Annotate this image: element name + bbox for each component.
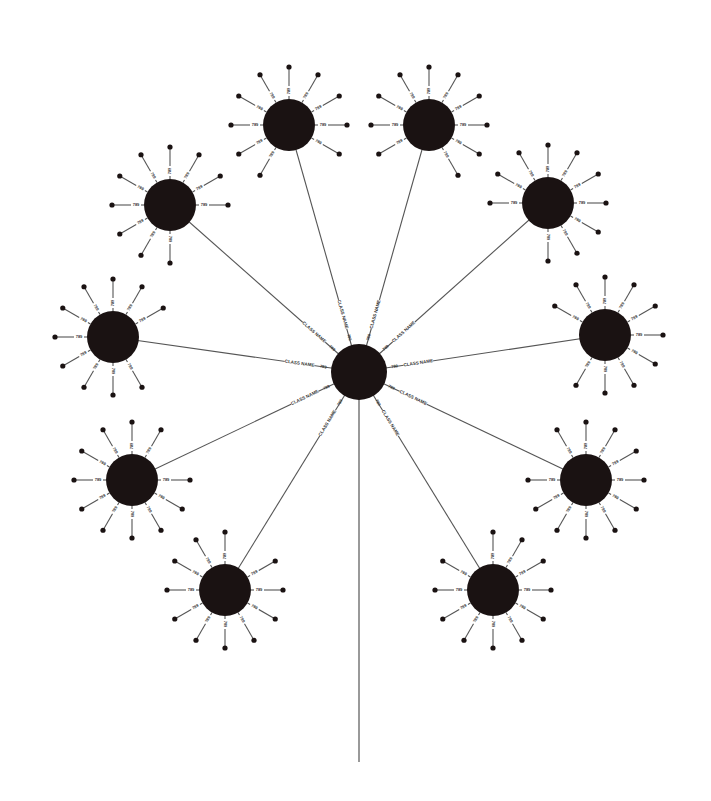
spoke-endpoint-dot[interactable]	[236, 93, 241, 98]
spoke-endpoint-dot[interactable]	[139, 284, 144, 289]
spoke-endpoint-dot[interactable]	[490, 645, 495, 650]
spoke-endpoint-dot[interactable]	[218, 173, 223, 178]
satellite-circle[interactable]	[106, 454, 158, 506]
spoke-endpoint-dot[interactable]	[109, 202, 114, 207]
spoke-endpoint-dot[interactable]	[631, 282, 636, 287]
spoke-endpoint-dot[interactable]	[117, 231, 122, 236]
satellite-node-n9[interactable]: 789789789789789789789789789789789	[164, 529, 285, 650]
spoke-endpoint-dot[interactable]	[490, 529, 495, 534]
spoke-endpoint-dot[interactable]	[60, 305, 65, 310]
satellite-circle[interactable]	[560, 454, 612, 506]
spoke-endpoint-dot[interactable]	[487, 200, 492, 205]
spoke-endpoint-dot[interactable]	[138, 253, 143, 258]
spoke-endpoint-dot[interactable]	[172, 558, 177, 563]
spoke-endpoint-dot[interactable]	[172, 616, 177, 621]
satellite-node-n10[interactable]: 789789789789789789789789789789789	[432, 529, 553, 650]
spoke-endpoint-dot[interactable]	[81, 284, 86, 289]
satellite-circle[interactable]	[403, 99, 455, 151]
spoke-endpoint-dot[interactable]	[273, 558, 278, 563]
spoke-endpoint-dot[interactable]	[653, 361, 658, 366]
satellite-node-n7[interactable]: 789789789789789789789789789789789	[71, 419, 192, 540]
spoke-endpoint-dot[interactable]	[315, 72, 320, 77]
spoke-endpoint-dot[interactable]	[60, 363, 65, 368]
spoke-endpoint-dot[interactable]	[653, 303, 658, 308]
spoke-endpoint-dot[interactable]	[545, 142, 550, 147]
spoke-endpoint-dot[interactable]	[129, 535, 134, 540]
spoke-endpoint-dot[interactable]	[573, 282, 578, 287]
spoke-endpoint-dot[interactable]	[129, 419, 134, 424]
spoke-endpoint-dot[interactable]	[376, 93, 381, 98]
spoke-endpoint-dot[interactable]	[533, 506, 538, 511]
spoke-endpoint-dot[interactable]	[193, 638, 198, 643]
satellite-node-n8[interactable]: 789789789789789789789789789789789	[525, 419, 646, 540]
spoke-endpoint-dot[interactable]	[138, 152, 143, 157]
spoke-endpoint-dot[interactable]	[187, 477, 192, 482]
spoke-endpoint-dot[interactable]	[477, 151, 482, 156]
spoke-endpoint-dot[interactable]	[337, 93, 342, 98]
spoke-endpoint-dot[interactable]	[596, 229, 601, 234]
spoke-endpoint-dot[interactable]	[100, 528, 105, 533]
satellite-node-n6[interactable]: 789789789789789789789789789789	[552, 274, 665, 395]
satellite-node-n3[interactable]: 789789789789789789789789789789	[109, 144, 230, 265]
spoke-endpoint-dot[interactable]	[541, 616, 546, 621]
spoke-endpoint-dot[interactable]	[484, 122, 489, 127]
spoke-endpoint-dot[interactable]	[222, 529, 227, 534]
spoke-endpoint-dot[interactable]	[228, 122, 233, 127]
spoke-endpoint-dot[interactable]	[477, 93, 482, 98]
spoke-endpoint-dot[interactable]	[193, 537, 198, 542]
spoke-endpoint-dot[interactable]	[525, 477, 530, 482]
spoke-endpoint-dot[interactable]	[81, 385, 86, 390]
satellite-node-n1[interactable]: 789789789789789789789789789789	[228, 64, 349, 177]
satellite-circle[interactable]	[579, 309, 631, 361]
spoke-endpoint-dot[interactable]	[273, 616, 278, 621]
spoke-endpoint-dot[interactable]	[641, 477, 646, 482]
spoke-endpoint-dot[interactable]	[257, 72, 262, 77]
spoke-endpoint-dot[interactable]	[164, 587, 169, 592]
spoke-endpoint-dot[interactable]	[602, 274, 607, 279]
spoke-endpoint-dot[interactable]	[79, 506, 84, 511]
spoke-endpoint-dot[interactable]	[52, 334, 57, 339]
spoke-endpoint-dot[interactable]	[554, 528, 559, 533]
spoke-endpoint-dot[interactable]	[110, 276, 115, 281]
spoke-endpoint-dot[interactable]	[634, 506, 639, 511]
satellite-circle[interactable]	[144, 179, 196, 231]
spoke-endpoint-dot[interactable]	[440, 616, 445, 621]
spoke-endpoint-dot[interactable]	[583, 419, 588, 424]
spoke-endpoint-dot[interactable]	[548, 587, 553, 592]
satellite-circle[interactable]	[87, 311, 139, 363]
spoke-endpoint-dot[interactable]	[461, 638, 466, 643]
spoke-endpoint-dot[interactable]	[426, 64, 431, 69]
spoke-endpoint-dot[interactable]	[280, 587, 285, 592]
spoke-endpoint-dot[interactable]	[545, 258, 550, 263]
spoke-endpoint-dot[interactable]	[222, 645, 227, 650]
spoke-endpoint-dot[interactable]	[455, 173, 460, 178]
spoke-endpoint-dot[interactable]	[368, 122, 373, 127]
spoke-endpoint-dot[interactable]	[225, 202, 230, 207]
spoke-endpoint-dot[interactable]	[631, 383, 636, 388]
satellite-circle[interactable]	[199, 564, 251, 616]
spoke-endpoint-dot[interactable]	[117, 173, 122, 178]
spoke-endpoint-dot[interactable]	[583, 535, 588, 540]
hub-node[interactable]	[331, 344, 387, 400]
spoke-endpoint-dot[interactable]	[541, 558, 546, 563]
spoke-endpoint-dot[interactable]	[158, 528, 163, 533]
spoke-endpoint-dot[interactable]	[251, 638, 256, 643]
spoke-endpoint-dot[interactable]	[455, 72, 460, 77]
spoke-endpoint-dot[interactable]	[161, 305, 166, 310]
spoke-endpoint-dot[interactable]	[257, 173, 262, 178]
spoke-endpoint-dot[interactable]	[440, 558, 445, 563]
spoke-endpoint-dot[interactable]	[660, 332, 665, 337]
spoke-endpoint-dot[interactable]	[344, 122, 349, 127]
spoke-endpoint-dot[interactable]	[432, 587, 437, 592]
spoke-endpoint-dot[interactable]	[596, 171, 601, 176]
spoke-endpoint-dot[interactable]	[71, 477, 76, 482]
spoke-endpoint-dot[interactable]	[603, 200, 608, 205]
spoke-endpoint-dot[interactable]	[167, 144, 172, 149]
spoke-endpoint-dot[interactable]	[574, 251, 579, 256]
spoke-endpoint-dot[interactable]	[337, 151, 342, 156]
spoke-endpoint-dot[interactable]	[397, 72, 402, 77]
spoke-endpoint-dot[interactable]	[516, 150, 521, 155]
spoke-endpoint-dot[interactable]	[167, 260, 172, 265]
satellite-node-n2[interactable]: 789789789789789789789789789789	[368, 64, 489, 177]
spoke-endpoint-dot[interactable]	[139, 385, 144, 390]
